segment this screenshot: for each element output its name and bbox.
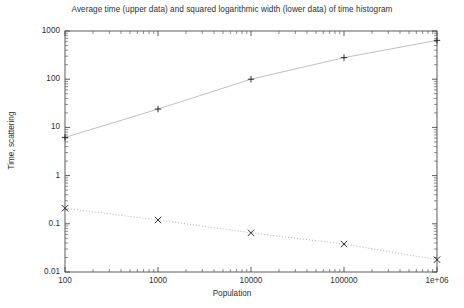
y-tick-label: 10 [20, 122, 60, 131]
y-axis-label: Time, scattering [7, 101, 16, 181]
x-tick-label: 10000 [221, 276, 281, 285]
chart-figure: Average time (upper data) and squared lo… [0, 0, 464, 308]
major-ticks [65, 31, 437, 272]
x-tick-label: 1e+06 [407, 276, 464, 285]
series-lower-line [65, 208, 437, 259]
y-tick-label: 1000 [20, 26, 60, 35]
y-tick-label: 0.01 [20, 267, 60, 276]
x-tick-label: 100 [35, 276, 95, 285]
x-tick-label: 1000 [128, 276, 188, 285]
x-tick-label: 100000 [314, 276, 374, 285]
series-upper-markers [62, 37, 440, 140]
x-axis-label: Population [0, 289, 464, 298]
series-lower-markers [62, 205, 440, 263]
y-tick-label: 1 [20, 171, 60, 180]
chart-title: Average time (upper data) and squared lo… [0, 5, 464, 14]
plot-area [0, 0, 464, 308]
y-tick-label: 0.1 [20, 219, 60, 228]
series-upper-line [65, 40, 437, 137]
minor-ticks [65, 31, 437, 272]
y-tick-label: 100 [20, 74, 60, 83]
axis-frame [65, 31, 437, 272]
